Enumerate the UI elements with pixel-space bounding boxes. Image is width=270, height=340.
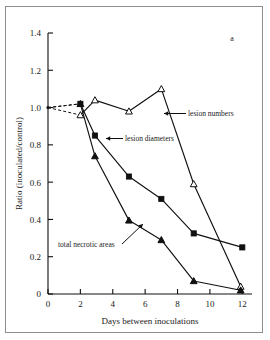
annotation-label-lesion-numbers: lesion numbers: [188, 109, 234, 118]
data-point-total-necrotic-areas: [158, 237, 165, 243]
annotation-label-lesion-diameters: lesion diameters: [125, 134, 174, 143]
data-point-total-necrotic-areas: [92, 153, 99, 159]
chart-canvas: 00.20.40.60.81.01.21.4024681012Days betw…: [0, 0, 270, 340]
leader-dashed-total-necrotic-areas: [48, 104, 80, 108]
y-tick-label: 1.4: [30, 28, 42, 38]
annotation-arrowhead-lesion-diameters: [106, 136, 110, 141]
data-point-total-necrotic-areas: [126, 217, 133, 223]
x-tick-label: 8: [175, 299, 180, 309]
origin-anchor: [46, 106, 49, 109]
figure-panel: 00.20.40.60.81.01.21.4024681012Days betw…: [0, 0, 270, 340]
data-point-lesion-diameters: [240, 245, 245, 250]
annotation-label-total-necrotic-areas: total necrotic areas: [58, 240, 115, 249]
x-tick-label: 12: [238, 299, 247, 309]
y-tick-label: 1.0: [30, 103, 42, 113]
data-point-lesion-diameters: [126, 174, 131, 179]
data-point-lesion-numbers: [92, 97, 99, 103]
y-tick-label: 0.2: [30, 252, 41, 262]
y-tick-label: 0.6: [30, 178, 42, 188]
x-tick-label: 10: [205, 299, 215, 309]
leader-dashed-lesion-numbers: [48, 108, 80, 115]
y-tick-label: 1.2: [30, 66, 41, 76]
x-tick-label: 0: [46, 299, 51, 309]
x-axis-title: Days between inoculations: [102, 316, 199, 326]
y-tick-label: 0.4: [30, 215, 42, 225]
annotation-arrow-total-necrotic-areas: [122, 224, 143, 244]
y-axis-title: Ratio (inoculated/control): [14, 117, 24, 210]
data-point-lesion-numbers: [158, 86, 165, 92]
data-point-lesion-numbers: [190, 181, 197, 187]
y-tick-label: 0: [37, 289, 42, 299]
data-point-lesion-diameters: [92, 133, 97, 138]
panel-label: a: [230, 34, 234, 43]
data-point-lesion-diameters: [191, 231, 196, 236]
series-line-lesion-numbers: [80, 89, 240, 287]
x-tick-label: 6: [143, 299, 148, 309]
y-tick-label: 0.8: [30, 140, 42, 150]
data-point-lesion-diameters: [159, 196, 164, 201]
annotation-arrowhead-lesion-numbers: [164, 111, 168, 116]
x-tick-label: 4: [111, 299, 116, 309]
x-tick-label: 2: [78, 299, 83, 309]
